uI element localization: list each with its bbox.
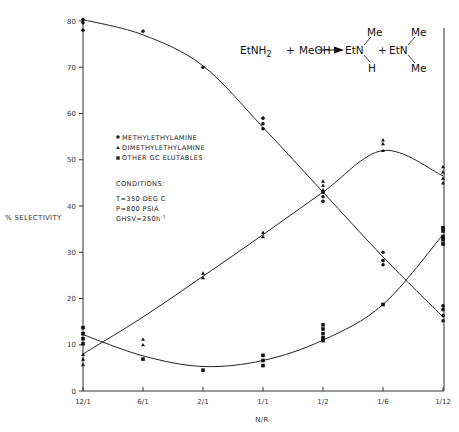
circle-data-point xyxy=(441,314,445,318)
x-tick-label: 1/6 xyxy=(377,398,389,406)
x-tick-label: 1/12 xyxy=(435,398,451,406)
product2-top-group: Me xyxy=(411,26,427,38)
product2-bottom-group: Me xyxy=(411,62,427,74)
x-tick-label: 1/1 xyxy=(257,398,268,406)
product2-core: EtN xyxy=(389,44,408,56)
triangle-data-point xyxy=(381,138,385,141)
condition-temperature: T=350 DEG C xyxy=(115,195,166,203)
y-tick-label: 20 xyxy=(67,295,76,303)
legend-item-methylethylamine: METHYLETHYLAMINE xyxy=(116,134,197,142)
square-data-point xyxy=(441,238,445,242)
plus-sign-2: + xyxy=(378,44,387,56)
triangle-data-point xyxy=(201,271,205,274)
triangle-data-point xyxy=(321,179,325,182)
circle-data-point xyxy=(261,116,265,120)
y-tick-label: 60 xyxy=(67,110,76,118)
product1-top-group: Me xyxy=(367,26,383,38)
circle-data-point xyxy=(441,304,445,308)
legend-item-other-gc-elutables: OTHER GC ELUTABLES xyxy=(116,154,203,162)
circle-data-point xyxy=(321,195,325,199)
ghsv-value: GHSV=250h xyxy=(116,215,161,223)
square-data-point xyxy=(81,337,85,341)
x-axis-title: N/R xyxy=(255,416,268,424)
square-data-point xyxy=(81,326,85,330)
legend-label: OTHER GC ELUTABLES xyxy=(122,154,203,162)
circle-data-point xyxy=(261,127,265,131)
square-data-point xyxy=(321,323,325,327)
ghsv-exponent: -1 xyxy=(161,214,166,219)
triangle-data-point xyxy=(321,183,325,186)
triangle-data-point xyxy=(261,231,265,234)
square-data-point xyxy=(81,342,85,346)
square-data-point xyxy=(81,332,85,336)
circle-data-point xyxy=(261,122,265,126)
legend-item-dimethylethylamine: DIMETHYLETHYLAMINE xyxy=(116,144,205,152)
triangle-data-point xyxy=(141,343,145,346)
product1-core: EtN xyxy=(345,44,364,56)
square-data-point xyxy=(261,364,265,368)
bond-line xyxy=(408,37,415,45)
circle-data-point xyxy=(141,29,145,33)
square-data-point xyxy=(321,327,325,331)
square-marker-icon xyxy=(116,156,119,159)
fit-curves xyxy=(83,20,443,367)
fit-curve-methylethylamine xyxy=(83,20,443,317)
triangle-data-point xyxy=(81,357,85,360)
product1-bottom-group: H xyxy=(368,62,376,74)
bond-line xyxy=(364,55,370,62)
y-tick-label: 50 xyxy=(67,156,76,164)
triangle-data-point xyxy=(141,337,145,340)
y-tick-label: 10 xyxy=(67,341,76,349)
y-tick-label: 30 xyxy=(67,249,76,257)
triangle-data-point xyxy=(81,363,85,366)
reactant1-text: EtNH xyxy=(240,44,267,56)
circle-data-point xyxy=(81,21,85,25)
circle-data-point xyxy=(381,263,385,267)
triangle-data-point xyxy=(381,142,385,145)
fit-curve-other-gc-elutables xyxy=(83,235,443,367)
y-tick-label: 0 xyxy=(72,388,76,396)
square-data-point xyxy=(441,226,445,230)
triangle-marker-icon xyxy=(116,146,120,149)
y-tick-label: 70 xyxy=(67,64,76,72)
circle-data-point xyxy=(381,259,385,263)
reactant-ethylamine: EtNH2 xyxy=(240,44,272,59)
circle-marker-icon xyxy=(116,135,120,139)
circle-data-point xyxy=(441,319,445,323)
conditions-block: CONDITIONS: T=350 DEG C P=800 PSIA GHSV=… xyxy=(115,180,166,223)
circle-data-point xyxy=(81,28,85,32)
square-data-point xyxy=(261,359,265,363)
square-data-point xyxy=(441,229,445,233)
triangle-data-point xyxy=(321,188,325,191)
square-data-point xyxy=(321,339,325,343)
y-ticks: 01020304050607080 xyxy=(67,18,83,396)
square-data-point xyxy=(321,332,325,336)
y-tick-label: 40 xyxy=(67,203,76,211)
circle-data-point xyxy=(201,65,205,69)
legend: METHYLETHYLAMINE DIMETHYLETHYLAMINE OTHE… xyxy=(116,134,205,163)
x-tick-label: 1/2 xyxy=(317,398,328,406)
circle-data-point xyxy=(321,200,325,204)
condition-pressure: P=800 PSIA xyxy=(116,205,159,213)
legend-label: DIMETHYLETHYLAMINE xyxy=(122,144,205,152)
conditions-title: CONDITIONS: xyxy=(116,180,165,188)
circle-data-point xyxy=(381,250,385,254)
x-ticks: 12/16/12/11/11/21/61/12 xyxy=(75,387,451,406)
square-data-point xyxy=(261,354,265,358)
selectivity-chart: 01020304050607080 12/16/12/11/11/21/61/1… xyxy=(0,0,459,432)
condition-ghsv: GHSV=250h-1 xyxy=(116,214,166,223)
reaction-equation: EtNH2 + MeOH EtN Me H + EtN Me Me xyxy=(240,26,427,74)
axes: 01020304050607080 12/16/12/11/11/21/61/1… xyxy=(5,18,451,425)
square-data-point xyxy=(381,303,385,307)
y-axis-title: % SELECTIVITY xyxy=(5,214,62,222)
x-tick-label: 12/1 xyxy=(75,398,91,406)
circle-data-point xyxy=(441,308,445,312)
x-tick-label: 6/1 xyxy=(137,398,148,406)
y-tick-label: 80 xyxy=(67,18,76,26)
plus-sign-1: + xyxy=(286,44,295,56)
x-tick-label: 2/1 xyxy=(197,398,208,406)
bond-line xyxy=(364,37,371,45)
reactant1-subscript: 2 xyxy=(267,50,272,59)
legend-label: METHYLETHYLAMINE xyxy=(122,134,197,142)
square-data-point xyxy=(441,242,445,246)
